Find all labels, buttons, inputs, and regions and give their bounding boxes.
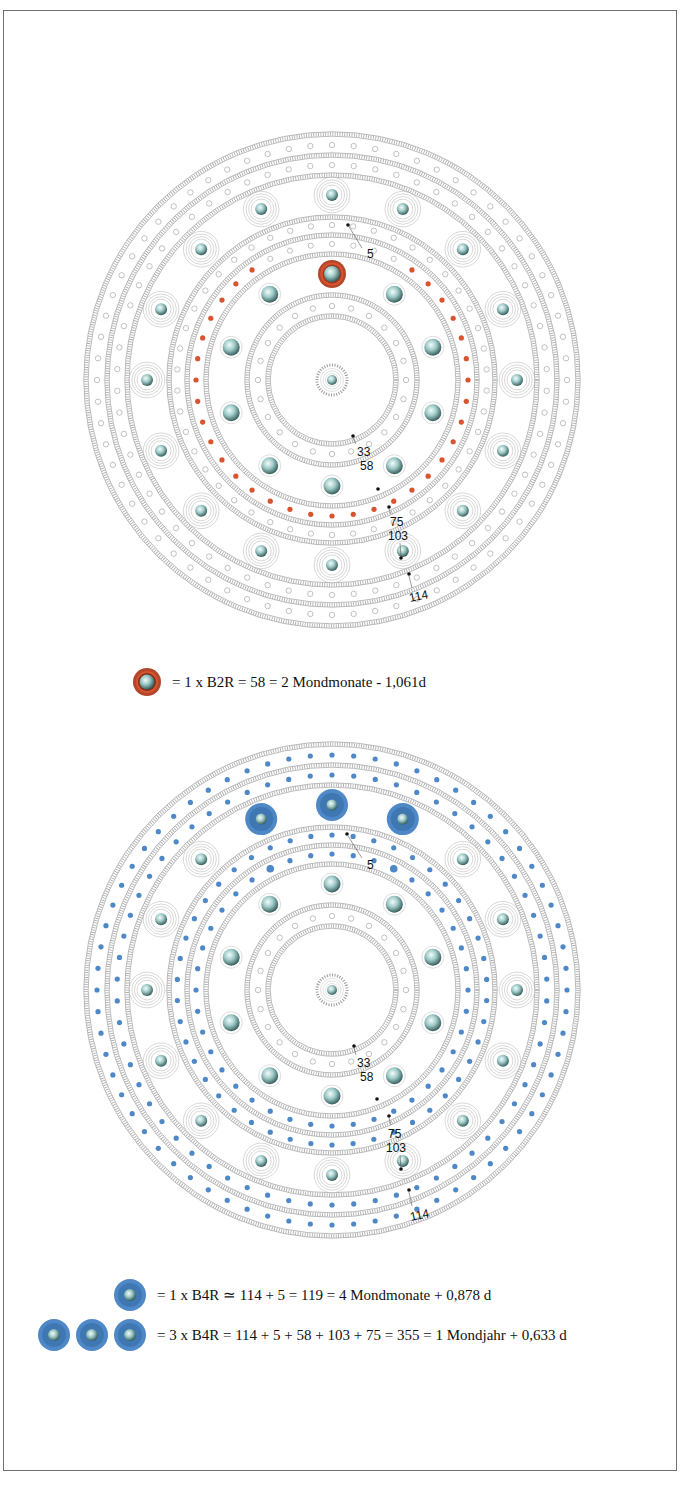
boss xyxy=(386,896,403,913)
boss xyxy=(155,913,167,925)
boss xyxy=(327,985,337,995)
blue-boss-triple-icon xyxy=(37,1318,147,1352)
count-label: 75 xyxy=(388,1127,402,1141)
boss xyxy=(155,303,167,315)
count-label: 5 xyxy=(367,247,374,261)
boss xyxy=(511,374,523,386)
boss xyxy=(424,1014,441,1031)
legend-b2r-text: = 1 x B2R = 58 = 2 Mondmonate - 1,061d xyxy=(172,674,426,691)
boss xyxy=(195,1115,207,1127)
boss xyxy=(386,457,403,474)
boss xyxy=(195,243,207,255)
boss xyxy=(424,404,441,421)
boss xyxy=(326,1169,338,1181)
boss xyxy=(195,853,207,865)
boss xyxy=(223,339,240,356)
boss xyxy=(255,545,267,557)
boss xyxy=(326,189,338,201)
boss xyxy=(155,445,167,457)
boss xyxy=(261,286,278,303)
boss xyxy=(223,404,240,421)
boss xyxy=(261,1067,278,1084)
center-boss xyxy=(317,365,347,395)
count-label: 5 xyxy=(367,858,374,872)
boss xyxy=(255,203,267,215)
count-label: 103 xyxy=(388,529,408,543)
legend-b2r: = 1 x B2R = 58 = 2 Mondmonate - 1,061d xyxy=(132,667,426,697)
boss xyxy=(397,1155,409,1167)
boss xyxy=(223,1014,240,1031)
count-label: 114 xyxy=(408,587,430,605)
legend-b4r-single: = 1 x B4R ≃ 114 + 5 = 119 = 4 Mondmonate… xyxy=(113,1278,491,1312)
boss xyxy=(424,949,441,966)
boss xyxy=(155,1055,167,1067)
boss xyxy=(397,814,408,825)
boss xyxy=(324,876,341,893)
boss xyxy=(324,478,341,495)
boss xyxy=(497,445,509,457)
red-ringed-boss-icon xyxy=(132,667,162,697)
boss xyxy=(327,800,338,811)
boss xyxy=(457,853,469,865)
boss xyxy=(457,505,469,517)
calendar-disk-b4r: 5335875103114 xyxy=(0,710,687,1270)
boss xyxy=(324,266,340,282)
boss xyxy=(397,203,409,215)
boss xyxy=(386,1067,403,1084)
boss xyxy=(326,559,338,571)
boss xyxy=(424,339,441,356)
count-label: 114 xyxy=(409,1206,431,1224)
boss xyxy=(223,949,240,966)
count-label: 33 xyxy=(357,445,371,459)
boss xyxy=(497,303,509,315)
boss xyxy=(511,984,523,996)
count-label: 58 xyxy=(360,459,374,473)
boss xyxy=(457,1115,469,1127)
legend-b4r-single-text: = 1 x B4R ≃ 114 + 5 = 119 = 4 Mondmonate… xyxy=(157,1286,491,1304)
boss xyxy=(261,896,278,913)
boss xyxy=(397,545,409,557)
boss xyxy=(386,286,403,303)
count-label: 75 xyxy=(390,515,404,529)
center-boss xyxy=(317,975,347,1005)
boss xyxy=(141,984,153,996)
boss xyxy=(256,814,267,825)
boss xyxy=(324,1088,341,1105)
boss xyxy=(141,374,153,386)
count-label: 58 xyxy=(360,1070,374,1084)
count-label: 33 xyxy=(357,1056,371,1070)
boss xyxy=(195,505,207,517)
boss xyxy=(497,913,509,925)
count-label: 103 xyxy=(386,1141,406,1155)
boss xyxy=(457,243,469,255)
boss xyxy=(327,375,337,385)
boss xyxy=(497,1055,509,1067)
legend-b4r-triple: = 3 x B4R = 114 + 5 + 58 + 103 + 75 = 35… xyxy=(37,1318,567,1352)
boss xyxy=(255,1155,267,1167)
legend-b4r-triple-text: = 3 x B4R = 114 + 5 + 58 + 103 + 75 = 35… xyxy=(157,1327,567,1344)
blue-boss-icon xyxy=(113,1278,147,1312)
boss xyxy=(261,457,278,474)
calendar-disk-b2r: 5335875103114 xyxy=(0,100,687,660)
